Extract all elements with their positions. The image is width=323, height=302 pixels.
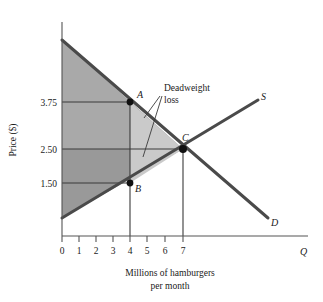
point-b-label: B [135,183,141,194]
point-c-marker [179,145,187,153]
deadweight-loss-annotation-line1: Deadweight [164,83,210,93]
x-axis-caption-line2: per month [151,281,190,291]
y-tick-label-375: 3.75 [40,98,57,108]
deadweight-loss-annotation-line2: loss [164,95,179,105]
point-b-marker [127,180,134,187]
x-tick-label-2: 2 [94,246,99,256]
y-axis-title: Price ($) [8,124,19,157]
x-axis-symbol: Q [300,246,308,257]
x-tick-label-6: 6 [163,246,168,256]
x-axis-caption-line1: Millions of hamburgers [125,268,215,278]
supply-demand-figure: 0 1 2 3 4 5 6 7 3.75 2.50 1.50 Price ($)… [0,0,323,302]
demand-curve-label: D [270,217,279,228]
point-a-label: A [136,89,144,100]
y-tick-label-250: 2.50 [40,145,57,155]
deadweight-leader-upper [144,96,160,118]
point-c-label: C [182,132,189,143]
x-tick-label-1: 1 [77,246,82,256]
x-tick-label-4: 4 [128,246,133,256]
supply-curve-label: S [261,91,266,102]
x-tick-label-5: 5 [145,246,150,256]
point-a-marker [127,99,134,106]
x-tick-label-7: 7 [181,246,186,256]
y-tick-label-150: 1.50 [40,179,57,189]
x-axis-ticks [62,236,183,242]
x-tick-label-0: 0 [60,246,65,256]
x-tick-label-3: 3 [111,246,116,256]
